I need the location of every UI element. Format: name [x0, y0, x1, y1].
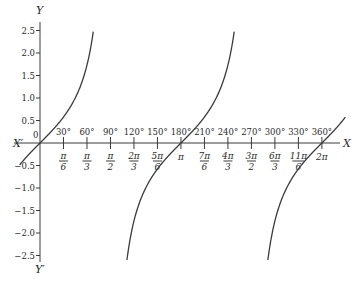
x-tick-degree-label: 330° — [288, 127, 308, 137]
y-tick-label: 2.5 — [21, 26, 35, 36]
x-tick-degree-label: 210° — [194, 127, 214, 137]
x-tick-degree-label: 270° — [241, 127, 261, 137]
x-axis-ticks: 30°π660°π390°π2120°2π3150°5π6180°π210°7π… — [56, 127, 332, 172]
tangent-curves — [20, 32, 346, 260]
x-tick-radian-label: 2π — [315, 152, 329, 162]
x-tick-degree-label: 240° — [218, 127, 238, 137]
tangent-chart: 2.52.01.51.00.5−0.5−1.0−1.5−2.0−2.5 30°π… — [0, 0, 361, 283]
x-tick-radian-numerator: 4π — [221, 151, 235, 161]
y-tick-label: −0.5 — [14, 161, 35, 171]
x-tick-radian-numerator: π — [60, 151, 68, 161]
y-tick-label: −2.5 — [14, 251, 35, 261]
x-tick-degree-label: 120° — [124, 127, 144, 137]
x-tick-radian-label: π — [177, 152, 185, 162]
x-tick-radian-denominator: 6 — [61, 162, 67, 172]
x-tick-degree-label: 300° — [265, 127, 285, 137]
y-tick-label: −2.0 — [14, 228, 35, 238]
axes — [14, 22, 340, 262]
x-tick-radian-denominator: 6 — [202, 162, 208, 172]
y-tick-label: 0.5 — [21, 116, 35, 126]
y-axis-label: Y — [36, 4, 45, 17]
x-tick-radian-denominator: 3 — [272, 162, 278, 172]
x-tick-radian-denominator: 2 — [107, 162, 114, 172]
tangent-branch — [268, 117, 346, 260]
y-tick-label: 1.5 — [21, 71, 35, 81]
x-tick-radian-numerator: π — [83, 151, 91, 161]
y-axis-negative-label: Y′ — [35, 263, 45, 276]
origin-label: 0 — [33, 130, 38, 140]
x-tick-radian-denominator: 3 — [225, 162, 231, 172]
x-tick-degree-label: 150° — [147, 127, 167, 137]
x-tick-radian-numerator: π — [107, 151, 115, 161]
x-axis-label: X — [342, 137, 352, 150]
y-tick-label: −1.5 — [14, 206, 35, 216]
x-tick-radian-numerator: 6π — [269, 151, 282, 161]
x-tick-radian-numerator: 2π — [127, 151, 141, 161]
x-tick-degree-label: 30° — [56, 127, 71, 137]
x-tick-degree-label: 60° — [79, 127, 94, 137]
x-tick-radian-denominator: 2 — [248, 162, 255, 172]
y-tick-label: 1.0 — [21, 93, 35, 103]
y-tick-label: −1.0 — [14, 183, 35, 193]
x-tick-radian-denominator: 3 — [84, 162, 90, 172]
x-tick-radian-numerator: 3π — [246, 151, 259, 161]
x-tick-degree-label: 90° — [103, 127, 118, 137]
x-tick-radian-denominator: 3 — [131, 162, 137, 172]
y-tick-label: 2.0 — [21, 48, 35, 58]
x-tick-radian-numerator: 7π — [199, 151, 212, 161]
x-axis-negative-label: X′ — [12, 137, 24, 150]
x-tick-radian-numerator: 5π — [152, 151, 165, 161]
